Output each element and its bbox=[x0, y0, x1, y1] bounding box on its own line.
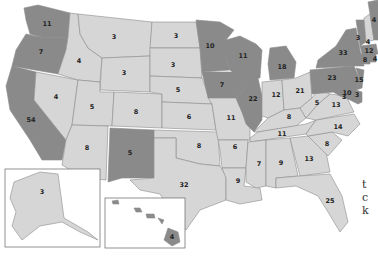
state-sd bbox=[150, 48, 202, 78]
label-hi: 4 bbox=[170, 233, 175, 241]
label-ma: 12 bbox=[364, 47, 373, 55]
label-co: 8 bbox=[134, 108, 139, 116]
label-ct: 8 bbox=[363, 56, 368, 64]
label-id: 4 bbox=[77, 57, 82, 65]
label-mn: 10 bbox=[205, 42, 215, 50]
label-de: 3 bbox=[355, 91, 360, 99]
label-ga: 13 bbox=[304, 155, 313, 163]
label-mt: 3 bbox=[112, 33, 117, 41]
label-ar: 6 bbox=[233, 143, 238, 151]
label-ut: 5 bbox=[90, 103, 95, 111]
label-pa: 23 bbox=[327, 74, 336, 82]
label-sc: 8 bbox=[325, 140, 330, 148]
state-fl bbox=[276, 174, 348, 232]
label-ia: 7 bbox=[220, 81, 225, 89]
label-mi: 18 bbox=[277, 63, 287, 71]
label-in: 12 bbox=[271, 91, 280, 99]
label-nv: 4 bbox=[54, 93, 59, 101]
side-text-line-1: t bbox=[362, 178, 366, 191]
label-ny: 33 bbox=[338, 49, 347, 57]
label-ky: 8 bbox=[287, 113, 292, 121]
label-or: 7 bbox=[39, 48, 44, 56]
label-dc: 3 bbox=[342, 93, 347, 101]
side-text-line-3: k bbox=[362, 204, 369, 217]
label-tn: 11 bbox=[277, 130, 287, 138]
label-ak: 3 bbox=[40, 188, 45, 196]
label-ca: 54 bbox=[26, 116, 36, 124]
side-text-line-2: c bbox=[362, 191, 368, 204]
label-nd: 3 bbox=[174, 32, 179, 40]
us-electoral-map: 11 7 54 4 4 3 3 5 8 8 5 3 3 5 6 8 32 10 … bbox=[0, 0, 378, 256]
label-az: 8 bbox=[85, 144, 90, 152]
label-wv: 5 bbox=[315, 99, 320, 107]
label-il: 22 bbox=[248, 95, 257, 103]
label-ok: 8 bbox=[197, 142, 202, 150]
label-nc: 14 bbox=[333, 123, 343, 131]
label-va: 13 bbox=[331, 101, 340, 109]
label-wy: 3 bbox=[122, 69, 127, 77]
label-ks: 6 bbox=[187, 113, 192, 121]
label-ms: 7 bbox=[257, 160, 262, 168]
label-sd: 3 bbox=[171, 61, 176, 69]
label-vt: 3 bbox=[356, 34, 361, 42]
label-tx: 32 bbox=[179, 181, 188, 189]
label-oh: 21 bbox=[295, 87, 305, 95]
label-mo: 11 bbox=[226, 114, 236, 122]
label-ne: 5 bbox=[176, 86, 181, 94]
label-nm: 5 bbox=[128, 149, 133, 157]
label-al: 9 bbox=[279, 159, 284, 167]
label-wi: 11 bbox=[238, 52, 248, 60]
label-wa: 11 bbox=[42, 20, 52, 28]
label-nj: 15 bbox=[354, 76, 364, 84]
label-nh: 4 bbox=[366, 38, 371, 46]
label-fl: 25 bbox=[325, 197, 335, 205]
label-ri: 4 bbox=[373, 55, 378, 63]
label-la: 9 bbox=[236, 177, 241, 185]
label-me: 4 bbox=[372, 16, 377, 24]
